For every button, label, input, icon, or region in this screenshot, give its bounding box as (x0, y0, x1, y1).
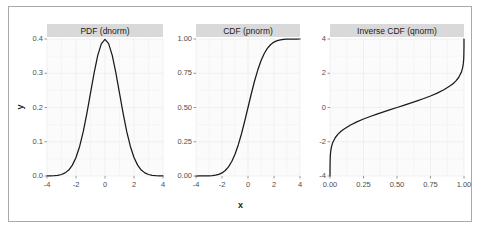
y-tick-label: 0.25 (162, 137, 192, 146)
x-tick-label: 0.25 (349, 180, 379, 189)
x-tick-label: -2 (61, 180, 91, 189)
x-axis-title: x (0, 200, 481, 210)
y-tick-label: -2 (296, 137, 326, 146)
y-tick-label: 0 (296, 103, 326, 112)
y-tick-label: 2 (296, 68, 326, 77)
x-tick-label: 0.75 (416, 180, 446, 189)
x-tick-label: 4 (285, 180, 315, 189)
y-tick-label: 1.00 (162, 34, 192, 43)
y-tick-label: 0.4 (13, 34, 43, 43)
x-tick-label: 0.00 (315, 180, 345, 189)
figure-root: PDF (dnorm) CDF (pnorm) Inverse CDF (qno… (0, 0, 481, 231)
panel-title-inverse-cdf: Inverse CDF (qnorm) (330, 25, 464, 38)
y-tick-label: 0.1 (13, 137, 43, 146)
y-tick-label: -4 (296, 171, 326, 180)
y-tick-label: 0.0 (13, 171, 43, 180)
x-tick-label: -4 (32, 180, 62, 189)
x-tick-label: 4 (148, 180, 178, 189)
x-tick-label: 0.50 (382, 180, 412, 189)
y-tick-label: 0.2 (13, 103, 43, 112)
y-tick-label: 0.75 (162, 68, 192, 77)
y-tick-label: 0.3 (13, 68, 43, 77)
y-tick-label: 0.50 (162, 103, 192, 112)
x-tick-label: 0 (90, 180, 120, 189)
panel-title-pdf: PDF (dnorm) (47, 25, 163, 38)
y-tick-label: 4 (296, 34, 326, 43)
y-tick-label: 0.00 (162, 171, 192, 180)
panel-title-cdf: CDF (pnorm) (196, 25, 300, 38)
x-tick-label: 2 (119, 180, 149, 189)
x-tick-label: 1.00 (449, 180, 479, 189)
